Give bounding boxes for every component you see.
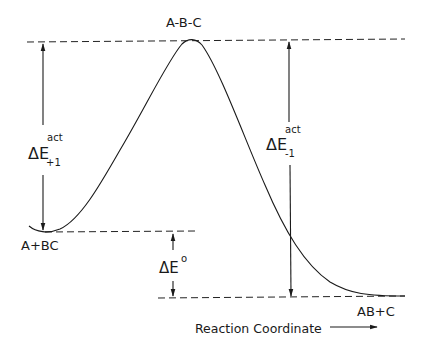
reverse-activation-arrow-down: [290, 165, 291, 296]
svg-text:ΔE: ΔE: [266, 135, 287, 154]
svg-text:act: act: [47, 132, 63, 143]
transition-state-label: A-B-C: [166, 15, 202, 30]
reactants-level-line: [45, 231, 196, 232]
forward-activation-label: ΔE act +1: [28, 132, 63, 168]
reaction-energy-label: ΔE o: [159, 253, 187, 277]
svg-text:+1: +1: [46, 157, 61, 168]
svg-text:act: act: [285, 124, 301, 135]
energy-diagram: A-B-C A+BC AB+C Reaction Coordinate ΔE a…: [0, 0, 425, 351]
reactants-label: A+BC: [21, 238, 59, 253]
transition-state-level-line: [27, 39, 405, 42]
energy-curve: [29, 40, 405, 296]
products-label: AB+C: [357, 304, 395, 319]
reverse-activation-label: ΔE act -1: [266, 124, 301, 159]
products-level-line: [158, 296, 405, 298]
svg-text:ΔE: ΔE: [159, 259, 179, 277]
svg-text:-1: -1: [285, 148, 295, 159]
x-axis-label: Reaction Coordinate: [195, 321, 322, 336]
svg-text:o: o: [181, 253, 187, 264]
